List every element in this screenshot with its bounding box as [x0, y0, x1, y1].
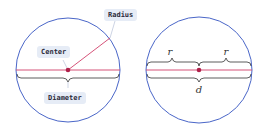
radius-line [68, 38, 110, 70]
r-right-brace [199, 58, 251, 66]
right-circle-diagram: r r d [146, 17, 252, 123]
diameter-brace [17, 74, 119, 82]
r-right-label: r [224, 46, 230, 57]
right-center-dot [197, 68, 202, 73]
r-left-label: r [168, 46, 174, 57]
radius-pointer [110, 21, 115, 38]
center-pointer [63, 60, 67, 68]
center-label: Center [37, 46, 70, 58]
left-center-dot [66, 68, 71, 73]
diameter-label: Diameter [44, 92, 86, 104]
r-left-brace [147, 58, 199, 66]
radius-label: Radius [104, 9, 137, 21]
d-label: d [196, 84, 202, 95]
left-circle-diagram [16, 18, 120, 122]
d-brace [147, 74, 251, 82]
